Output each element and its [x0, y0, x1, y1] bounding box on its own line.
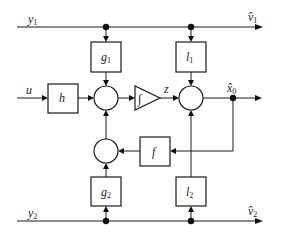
g1-input-arrowhead	[103, 36, 109, 42]
sum2-top-arrowhead	[188, 80, 194, 86]
y2-branch-dot-g2	[103, 218, 109, 224]
sum2-left-arrowhead	[173, 95, 179, 101]
sum3-right-arrowhead	[118, 148, 124, 154]
x0-hat-arrowhead	[255, 95, 262, 101]
sum2-bottom-arrowhead	[188, 110, 194, 116]
y1-label: y1	[27, 12, 37, 27]
sum3-bottom-arrowhead	[103, 163, 109, 169]
sum1-bottom-arrowhead	[103, 110, 109, 116]
v2-hat-label: v̂2	[248, 204, 257, 219]
x0-hat-label: x̂0	[226, 81, 236, 96]
l1-input-arrowhead	[188, 36, 194, 42]
integrator-input-arrowhead	[129, 95, 135, 101]
f-input-arrowhead	[170, 148, 176, 154]
h-input-arrowhead	[42, 95, 48, 101]
sum1-top-arrowhead	[103, 80, 109, 86]
u-label: u	[26, 83, 32, 97]
l2-input-arrowhead	[188, 206, 194, 212]
z-label: z	[163, 82, 169, 96]
g2-input-arrowhead	[103, 206, 109, 212]
sum-junction-1	[94, 86, 118, 110]
sum-junction-3	[94, 139, 118, 163]
block-diagram: y1 v̂1 g1 l1 u h ∫ z x̂0 f	[0, 0, 286, 237]
h-label: h	[59, 91, 65, 105]
y2-branch-dot-l2	[188, 218, 194, 224]
sum-junction-2	[179, 86, 203, 110]
v1-hat-label: v̂1	[248, 10, 257, 25]
y2-label: y2	[27, 206, 37, 221]
sum1-left-arrowhead	[88, 95, 94, 101]
